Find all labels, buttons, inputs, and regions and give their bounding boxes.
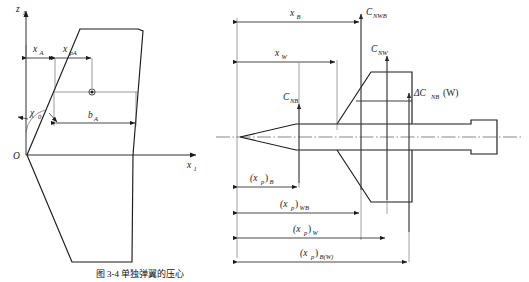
sweep-angle-arc bbox=[26, 110, 45, 132]
force-cnwb-subscript: NWB bbox=[372, 12, 387, 19]
dim-xp-wb-close: ) bbox=[295, 199, 298, 210]
dim-ba-label: b bbox=[88, 110, 93, 120]
force-delta-cnbw-label: ΔC bbox=[413, 88, 427, 98]
force-cnb-subscript: NB bbox=[289, 97, 298, 104]
figure-container: z 1 x 1 O x A x bbox=[0, 0, 529, 282]
dim-xp-w-post: W bbox=[313, 229, 319, 236]
dim-xp-bw-post: B(W) bbox=[320, 253, 334, 261]
dim-xpa-subscript: pA bbox=[69, 49, 77, 56]
axis-origin-label: O bbox=[13, 151, 20, 161]
dim-xpa-label: x bbox=[62, 44, 68, 54]
wing-lower-planform bbox=[337, 150, 412, 202]
dim-xp-b-close: ) bbox=[265, 173, 268, 184]
wing-upper-planform bbox=[337, 72, 412, 124]
force-cnwb-label: C bbox=[366, 7, 373, 17]
force-cnwb-group: C NWB bbox=[361, 7, 387, 190]
sweep-angle-leader-right bbox=[49, 113, 57, 122]
sweep-angle-label: χ bbox=[29, 108, 35, 118]
force-delta-cnbw-suffix: (W) bbox=[443, 88, 458, 99]
dim-ba-group: b A bbox=[56, 110, 135, 123]
sweep-angle-group: χ 0 bbox=[18, 108, 57, 132]
axis-z1-subscript: 1 bbox=[23, 9, 26, 16]
sweep-angle-leader-left bbox=[18, 117, 28, 119]
axis-x1-label: x bbox=[186, 160, 192, 170]
right-diagram-group: C NWB C NW C NB ΔC NB (W) bbox=[216, 7, 523, 262]
technical-diagram-svg: z 1 x 1 O x A x bbox=[0, 0, 529, 282]
sweep-angle-subscript: 0 bbox=[38, 113, 42, 120]
dim-xp-bw-close: ) bbox=[315, 248, 318, 259]
dim-xp-bw-label: (x bbox=[300, 248, 308, 259]
wing-planform-lower bbox=[27, 155, 133, 262]
dim-xb-group: x B bbox=[238, 8, 359, 22]
force-cnb-group: C NB bbox=[283, 92, 299, 183]
dim-xp-bw-group: (x p ) B(W) bbox=[238, 248, 407, 262]
dim-xp-w-close: ) bbox=[308, 224, 311, 235]
dim-ba-subscript: A bbox=[93, 115, 98, 122]
dim-xa-group: x A bbox=[27, 44, 54, 58]
dim-xw-label: x bbox=[274, 48, 280, 58]
force-cnw-subscript: NW bbox=[377, 49, 388, 56]
dim-xa-subscript: A bbox=[39, 49, 44, 56]
dim-xb-label: x bbox=[289, 8, 295, 18]
dim-xp-w-group: (x p ) W bbox=[238, 224, 385, 238]
force-cnw-group: C NW bbox=[371, 44, 388, 200]
force-delta-cnbw-group: ΔC NB (W) bbox=[409, 88, 458, 232]
dim-xp-wb-post: WB bbox=[300, 204, 309, 211]
force-delta-cnbw-subscript: NB bbox=[430, 93, 439, 100]
dim-xa-label: x bbox=[32, 44, 38, 54]
axis-z1-label: z bbox=[15, 4, 20, 14]
dim-xp-b-label: (x bbox=[250, 173, 258, 184]
dim-xp-wb-group: (x p ) WB bbox=[238, 199, 359, 213]
dim-xp-b-group: (x p ) B bbox=[238, 173, 297, 187]
dim-xp-b-post: B bbox=[270, 178, 274, 185]
dim-xp-w-label: (x bbox=[293, 224, 301, 235]
left-diagram-group: z 1 x 1 O x A x bbox=[13, 4, 197, 262]
dim-xw-subscript: W bbox=[282, 53, 288, 60]
figure-caption: 图 3-4 单独弹翼的压心 bbox=[0, 267, 280, 280]
dim-xb-subscript: B bbox=[297, 13, 301, 20]
dim-xp-wb-label: (x bbox=[280, 199, 288, 210]
axis-x1-subscript: 1 bbox=[194, 165, 197, 172]
dim-xw-group: x W bbox=[238, 48, 335, 62]
dim-xpa-group: x pA bbox=[56, 44, 91, 58]
force-cnb-label: C bbox=[283, 92, 290, 102]
force-cnw-label: C bbox=[371, 44, 378, 54]
